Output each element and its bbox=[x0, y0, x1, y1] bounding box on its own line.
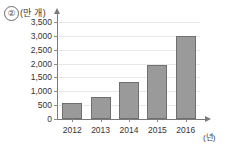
gridline bbox=[58, 22, 200, 23]
y-axis-tick-label: 3,000 bbox=[18, 32, 52, 41]
bar-2012 bbox=[62, 103, 82, 119]
y-axis-tick-label: 0 bbox=[18, 115, 52, 124]
x-axis-tick-mark bbox=[72, 119, 73, 122]
x-axis-tick-mark bbox=[186, 119, 187, 122]
y-axis-tick-mark bbox=[54, 77, 58, 78]
y-axis-tick-label: 500 bbox=[18, 101, 52, 110]
y-axis-tick-mark bbox=[54, 36, 58, 37]
x-axis-line bbox=[58, 119, 206, 120]
y-axis-tick-mark bbox=[54, 64, 58, 65]
x-axis-tick-mark bbox=[129, 119, 130, 122]
x-axis-arrow-icon bbox=[205, 116, 211, 122]
y-axis-tick-mark bbox=[54, 22, 58, 23]
item-number-badge: ② bbox=[4, 6, 19, 21]
bar-2015 bbox=[147, 65, 167, 119]
y-axis-tick-mark bbox=[54, 50, 58, 51]
y-axis-tick-label: 2,500 bbox=[18, 46, 52, 55]
x-axis-tick-mark bbox=[101, 119, 102, 122]
bar-chart-figure: ② (만 개) 05001,0001,5002,0002,5003,0003,5… bbox=[0, 0, 227, 149]
plot-area bbox=[58, 22, 200, 119]
x-axis-tick-label: 2016 bbox=[171, 126, 201, 135]
y-axis-tick-mark bbox=[54, 91, 58, 92]
y-axis-tick-label: 1,500 bbox=[18, 73, 52, 82]
y-axis-tick-mark bbox=[54, 119, 58, 120]
x-axis-tick-mark bbox=[157, 119, 158, 122]
x-axis-unit-label: (년) bbox=[203, 131, 215, 142]
x-axis-tick-label: 2012 bbox=[57, 126, 87, 135]
bar-2016 bbox=[176, 36, 196, 119]
y-axis-tick-label: 2,000 bbox=[18, 60, 52, 69]
x-axis-tick-label: 2014 bbox=[114, 126, 144, 135]
x-axis-tick-label: 2013 bbox=[86, 126, 116, 135]
bar-2013 bbox=[91, 97, 111, 119]
x-axis-tick-label: 2015 bbox=[142, 126, 172, 135]
y-axis-tick-mark bbox=[54, 105, 58, 106]
y-axis-tick-label: 1,000 bbox=[18, 87, 52, 96]
bar-2014 bbox=[119, 82, 139, 119]
y-axis-arrow-icon bbox=[54, 8, 60, 14]
y-axis-tick-label: 3,500 bbox=[18, 18, 52, 27]
